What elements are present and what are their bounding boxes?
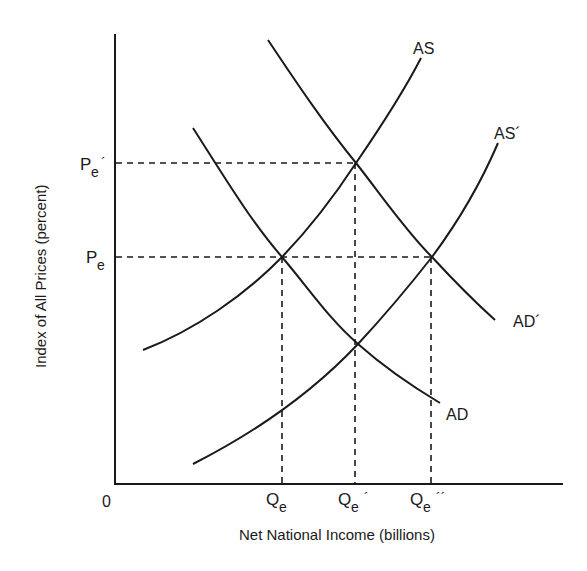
ad-label: AD <box>446 406 468 423</box>
svg-text:e: e <box>97 257 105 273</box>
svg-text:Q: Q <box>266 490 279 509</box>
qe-tick-label: Q e <box>266 490 287 515</box>
svg-text:e: e <box>351 499 359 515</box>
svg-text:´´: ´´ <box>436 490 445 506</box>
origin-label: 0 <box>102 493 111 510</box>
svg-text:P: P <box>80 155 91 174</box>
svg-text:´: ´ <box>364 490 369 506</box>
pe-tick-label: P e <box>86 248 105 273</box>
ad-prime-label: AD´ <box>513 313 541 330</box>
svg-text:e: e <box>279 499 287 515</box>
qe-prime-tick-label: Q e ´ <box>338 490 369 515</box>
svg-text:´: ´ <box>101 155 106 171</box>
as-prime-label: AS´ <box>494 125 521 142</box>
ad-curve <box>193 128 440 403</box>
y-axis-title: Index of All Prices (percent) <box>32 185 49 368</box>
svg-text:Q: Q <box>410 490 423 509</box>
x-axis-title: Net National Income (billions) <box>239 526 435 543</box>
qe-double-prime-tick-label: Q e ´´ <box>410 490 445 515</box>
as-label: AS <box>413 40 434 57</box>
ad-as-diagram: AS AS´ AD´ AD P e ´ P e 0 Q e Q e ´ Q e … <box>0 0 587 571</box>
svg-text:Q: Q <box>338 490 351 509</box>
pe-prime-tick-label: P e ´ <box>80 155 106 180</box>
svg-text:e: e <box>91 164 99 180</box>
ad-prime-curve <box>268 40 495 320</box>
svg-text:e: e <box>423 499 431 515</box>
svg-text:P: P <box>86 248 97 267</box>
